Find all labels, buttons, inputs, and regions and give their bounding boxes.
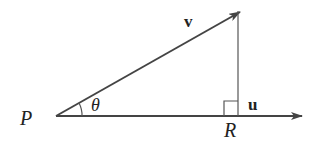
right-angle-marker: [224, 101, 238, 116]
label-v: v: [184, 12, 193, 31]
vector-v-line: [56, 12, 240, 116]
angle-arc: [79, 103, 82, 116]
label-r: R: [223, 119, 236, 141]
label-theta: θ: [91, 95, 100, 115]
label-p: P: [19, 107, 32, 129]
projection-diagram: v θ u P R: [0, 0, 311, 149]
label-u: u: [248, 95, 257, 114]
